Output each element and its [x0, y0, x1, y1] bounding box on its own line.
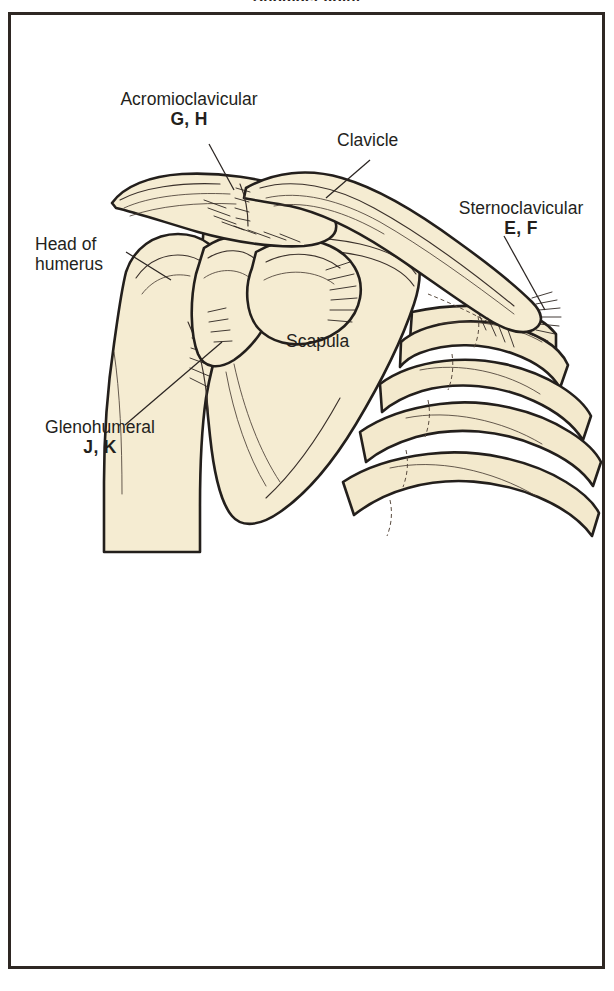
label-acromioclavicular-code: G, H	[91, 110, 287, 130]
label-acromioclavicular-name: Acromioclavicular	[91, 90, 287, 110]
label-clavicle: Clavicle	[337, 131, 398, 151]
label-glenohumeral: Glenohumeral J, K	[28, 418, 172, 457]
label-head-of-humerus-line2: humerus	[35, 255, 103, 275]
label-scapula: Scapula	[286, 332, 349, 352]
label-sternoclavicular-code: E, F	[432, 219, 610, 239]
label-glenohumeral-name: Glenohumeral	[28, 418, 172, 438]
label-clavicle-name: Clavicle	[337, 131, 398, 151]
label-glenohumeral-code: J, K	[28, 438, 172, 458]
label-sternoclavicular-name: Sternoclavicular	[432, 199, 610, 219]
label-acromioclavicular: Acromioclavicular G, H	[91, 90, 287, 129]
figure-page: Shoulder Joint .bone { fill:#f5ecd2; str…	[0, 0, 614, 991]
page-title: Shoulder Joint	[0, 0, 614, 1]
shoulder-anatomy-illustration: .bone { fill:#f5ecd2; stroke:#231f1c; st…	[8, 12, 605, 969]
label-head-of-humerus: Head of humerus	[35, 235, 103, 274]
label-sternoclavicular: Sternoclavicular E, F	[432, 199, 610, 238]
label-scapula-name: Scapula	[286, 332, 349, 352]
label-head-of-humerus-line1: Head of	[35, 235, 103, 255]
